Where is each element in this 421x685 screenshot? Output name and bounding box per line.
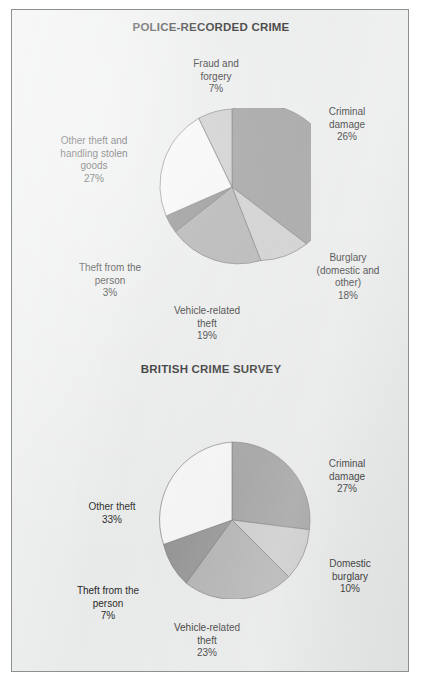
label-fraud-forgery-police: Fraud and forgery 7% — [171, 46, 261, 108]
label-burglary-police-pct: 18% — [298, 290, 398, 302]
label-criminal-damage-police-text: Criminal damage — [329, 106, 366, 129]
label-theft-person-bcs-text: Theft from the person — [77, 585, 139, 608]
pie-chart-police-recorded-crime — [153, 108, 311, 266]
pie-slice-criminal-damage-bcs — [232, 442, 310, 530]
label-other-theft-bcs: Other theft 33% — [66, 489, 158, 539]
chart-police-recorded-crime: POLICE-RECORDED CRIME — [12, 10, 410, 348]
label-domestic-burglary-bcs-pct: 10% — [306, 583, 394, 595]
label-other-theft-bcs-text: Other theft — [88, 501, 135, 512]
chart-title-british-crime-survey: BRITISH CRIME SURVEY — [12, 363, 410, 375]
label-criminal-damage-bcs: Criminal damage 27% — [304, 446, 390, 508]
label-theft-person-police: Theft from the person 3% — [58, 250, 162, 312]
label-fraud-forgery-police-text: Fraud and forgery — [193, 58, 239, 81]
chart-title-police-recorded-crime: POLICE-RECORDED CRIME — [12, 21, 410, 33]
label-other-theft-police: Other theft and handling stolen goods 27… — [38, 123, 150, 197]
label-criminal-damage-police: Criminal damage 26% — [304, 94, 390, 156]
label-theft-person-bcs-pct: 7% — [56, 610, 160, 622]
chart-british-crime-survey: BRITISH CRIME SURVEY Criminal damage — [12, 348, 410, 673]
label-theft-person-bcs: Theft from the person 7% — [56, 573, 160, 635]
label-vehicle-theft-police: Vehicle-related theft 19% — [152, 293, 262, 355]
label-burglary-police: Burglary (domestic and other) 18% — [298, 240, 398, 314]
label-other-theft-police-pct: 27% — [38, 173, 150, 185]
label-theft-person-police-pct: 3% — [58, 287, 162, 299]
label-criminal-damage-police-pct: 26% — [304, 131, 390, 143]
label-vehicle-theft-police-text: Vehicle-related theft — [174, 305, 240, 328]
label-vehicle-theft-bcs-text: Vehicle-related theft — [174, 622, 240, 645]
label-vehicle-theft-bcs: Vehicle-related theft 23% — [152, 610, 262, 672]
pie-svg-bcs — [153, 441, 311, 599]
label-criminal-damage-bcs-text: Criminal damage — [329, 458, 366, 481]
label-vehicle-theft-police-pct: 19% — [152, 330, 262, 342]
label-domestic-burglary-bcs-text: Domestic burglary — [329, 558, 371, 581]
label-criminal-damage-bcs-pct: 27% — [304, 483, 390, 495]
label-domestic-burglary-bcs: Domestic burglary 10% — [306, 546, 394, 608]
label-theft-person-police-text: Theft from the person — [79, 262, 141, 285]
page-canvas: POLICE-RECORDED CRIME — [0, 0, 421, 685]
pie-svg-police — [153, 108, 311, 266]
label-fraud-forgery-police-pct: 7% — [171, 83, 261, 95]
label-vehicle-theft-bcs-pct: 23% — [152, 647, 262, 659]
label-other-theft-bcs-pct: 33% — [66, 514, 158, 526]
figure-panel: POLICE-RECORDED CRIME — [11, 9, 409, 672]
label-burglary-police-text: Burglary (domestic and other) — [317, 252, 380, 288]
pie-chart-british-crime-survey — [153, 441, 311, 599]
label-other-theft-police-text: Other theft and handling stolen goods — [60, 135, 127, 171]
